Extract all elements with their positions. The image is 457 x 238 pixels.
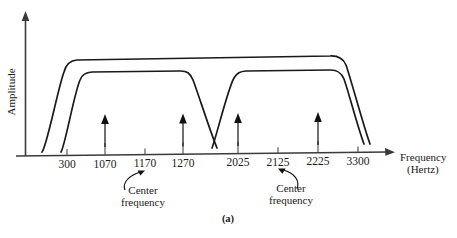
tick-label-300: 300 bbox=[58, 158, 76, 170]
x-axis bbox=[16, 148, 395, 156]
tick-label-1270: 1270 bbox=[172, 157, 195, 169]
figure-caption: (a) bbox=[222, 213, 235, 225]
tick-label-2025: 2025 bbox=[227, 156, 250, 168]
tick-label-2125: 2125 bbox=[267, 156, 290, 168]
curve-lower-channel bbox=[61, 71, 217, 152]
filter-response-figure: Amplitude Frequency (Hertz) 300 1070 117… bbox=[0, 0, 457, 238]
callout-left-line1: Center bbox=[128, 184, 158, 196]
callout-right-line1: Center bbox=[276, 182, 306, 194]
callout-left-line2: frequency bbox=[121, 196, 165, 208]
x-tick-labels: 300 1070 1170 1270 2025 2125 2225 3300 bbox=[58, 155, 369, 170]
callout-right-line2: frequency bbox=[269, 194, 313, 206]
marker-arrow-1070 bbox=[101, 114, 109, 147]
callout-right: Center frequency bbox=[269, 169, 313, 206]
marker-arrow-2025 bbox=[234, 113, 242, 146]
y-axis-label: Amplitude bbox=[5, 68, 17, 115]
marker-arrow-2225 bbox=[314, 112, 322, 145]
y-axis bbox=[22, 11, 30, 156]
tick-label-1170: 1170 bbox=[134, 157, 157, 169]
callout-left: Center frequency bbox=[121, 170, 165, 208]
tick-label-2225: 2225 bbox=[307, 155, 330, 167]
marker-arrow-1270 bbox=[179, 114, 187, 147]
tick-label-1070: 1070 bbox=[94, 158, 117, 170]
tick-label-3300: 3300 bbox=[347, 155, 370, 167]
x-axis-label-line1: Frequency bbox=[400, 151, 447, 163]
x-axis-label-line2: (Hertz) bbox=[407, 163, 439, 176]
curve-upper-channel bbox=[212, 70, 364, 148]
